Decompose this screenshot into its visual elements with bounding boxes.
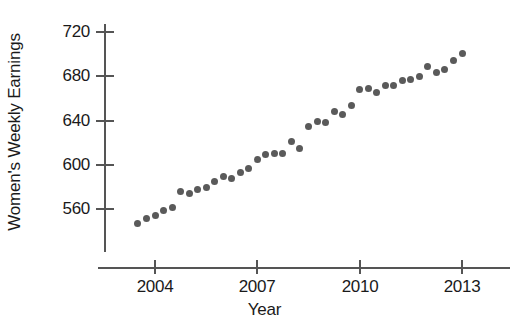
data-point: [424, 63, 431, 70]
x-axis-tick: [359, 260, 361, 274]
scatter-chart-figure: 560600640680720 2004200720102013 Women's…: [0, 0, 529, 336]
y-axis-tick-label-text: 560: [44, 200, 90, 217]
data-point: [365, 85, 372, 92]
data-point: [356, 86, 363, 93]
data-point: [331, 108, 338, 115]
x-axis-tick: [461, 260, 463, 274]
y-axis-tick-label-text: 720: [44, 23, 90, 40]
data-point: [322, 119, 329, 126]
data-point: [211, 178, 218, 185]
y-axis-tick-label: 560: [38, 200, 90, 217]
y-axis-tick-label-text: 600: [44, 156, 90, 173]
y-axis-tick: [96, 208, 114, 210]
data-point: [203, 184, 210, 191]
data-point: [433, 69, 440, 76]
data-point: [169, 204, 176, 211]
x-axis-line: [98, 267, 510, 269]
data-point: [373, 89, 380, 96]
plot-area: 560600640680720 2004200720102013: [0, 0, 529, 336]
data-point: [450, 57, 457, 64]
x-axis-tick-label-text: 2010: [330, 277, 390, 297]
y-axis-tick-label: 600: [38, 156, 90, 173]
data-point: [220, 173, 227, 180]
y-axis-tick: [96, 31, 114, 33]
x-axis-title: Year: [0, 300, 529, 320]
y-axis-tick: [96, 120, 114, 122]
x-axis-tick: [154, 260, 156, 274]
x-axis-tick: [256, 260, 258, 274]
data-point: [152, 212, 159, 219]
data-point: [339, 111, 346, 118]
data-point: [314, 118, 321, 125]
data-point: [228, 175, 235, 182]
y-axis-title: Women's Weekly Earnings: [2, 8, 28, 256]
data-point: [382, 82, 389, 89]
x-axis-tick-label: 2007: [227, 277, 287, 297]
data-point: [194, 186, 201, 193]
data-point: [279, 150, 286, 157]
data-point: [160, 207, 167, 214]
data-point: [390, 82, 397, 89]
data-point: [288, 138, 295, 145]
y-axis-tick-label-text: 640: [44, 112, 90, 129]
x-axis-tick-label: 2004: [125, 277, 185, 297]
x-axis-tick-label-text: 2013: [432, 277, 492, 297]
y-axis-tick-label: 720: [38, 23, 90, 40]
data-point: [177, 188, 184, 195]
data-point: [237, 169, 244, 176]
data-point: [407, 76, 414, 83]
x-axis-tick-label: 2010: [330, 277, 390, 297]
data-point: [441, 66, 448, 73]
y-axis-tick: [96, 75, 114, 77]
x-axis-tick-label: 2013: [432, 277, 492, 297]
data-point: [134, 220, 141, 227]
y-axis-tick-label: 680: [38, 67, 90, 84]
data-point: [348, 102, 355, 109]
data-point: [245, 165, 252, 172]
data-point: [254, 156, 261, 163]
x-axis-tick-label-text: 2004: [125, 277, 185, 297]
data-point: [186, 190, 193, 197]
data-point: [262, 151, 269, 158]
data-point: [296, 145, 303, 152]
y-axis-tick: [96, 164, 114, 166]
y-axis-tick-label-text: 680: [44, 67, 90, 84]
data-point: [459, 50, 466, 57]
data-point: [416, 73, 423, 80]
data-point: [271, 150, 278, 157]
data-point: [399, 77, 406, 84]
x-axis-tick-label-text: 2007: [227, 277, 287, 297]
data-point: [305, 123, 312, 130]
data-point: [143, 215, 150, 222]
y-axis-tick-label: 640: [38, 112, 90, 129]
y-axis-line: [104, 24, 106, 252]
